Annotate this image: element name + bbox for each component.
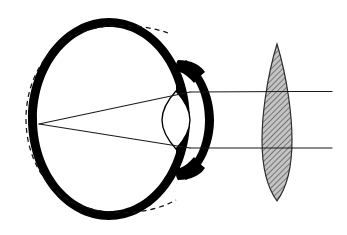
vitreous-interior [38,28,180,210]
eye-optics-diagram: Myopic eye with corrective biconvex lens… [0,0,347,235]
upper-ray-to-cornea [190,92,292,93]
eye-diagram-canvas [0,0,347,235]
